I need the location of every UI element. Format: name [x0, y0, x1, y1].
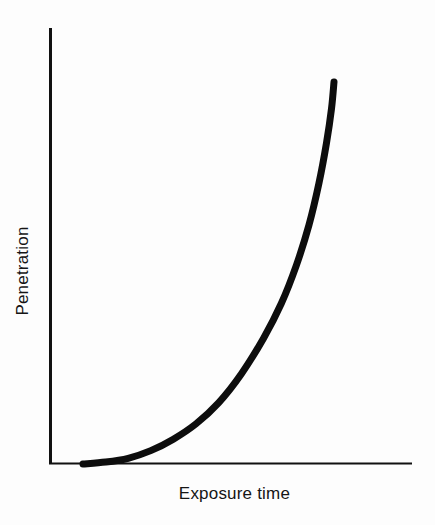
y-axis-label: Penetration: [13, 226, 33, 315]
chart-plot-area: [0, 0, 435, 525]
chart-figure: Penetration Exposure time: [0, 0, 435, 525]
data-series-curve: [83, 82, 334, 464]
y-axis-label-container: Penetration: [0, 0, 46, 525]
x-axis-label: Exposure time: [0, 484, 435, 504]
